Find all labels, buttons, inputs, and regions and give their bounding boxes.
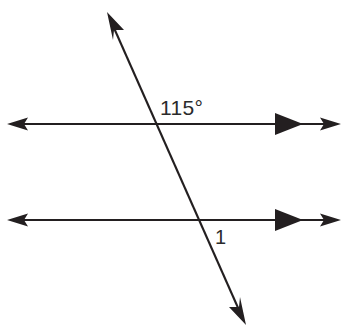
transversal-line — [114, 28, 239, 310]
transversal-bottom-arrowhead — [229, 297, 246, 325]
angle-measure-label: 115° — [160, 97, 203, 118]
diagram-canvas — [0, 0, 348, 329]
angle-number-label: 1 — [215, 227, 226, 247]
lower-parallel-line-group — [7, 209, 341, 231]
lower-line-parallel-marker-icon — [275, 209, 303, 231]
upper-line-parallel-marker-icon — [275, 113, 303, 135]
transversal-top-arrowhead — [107, 12, 124, 40]
transversal-line-group — [107, 12, 246, 325]
geometry-diagram: 115° 1 — [0, 0, 348, 329]
